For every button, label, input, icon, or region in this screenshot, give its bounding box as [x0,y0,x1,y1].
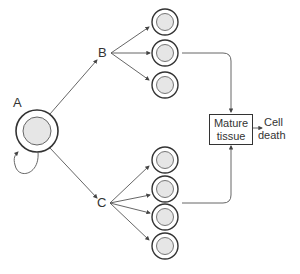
arrow-a-to-c [50,148,97,198]
mature-tissue-line1: Mature [214,117,248,130]
label-a: A [13,96,22,109]
stem-cell-a [16,110,58,152]
arrow-b-to-tissue [182,53,231,112]
lineage-diagram [0,0,300,274]
label-b: B [98,46,107,59]
arrow-c-to-tissue [182,146,231,203]
mature-tissue-line2: tissue [217,130,246,143]
c-progeny-cells [152,147,178,259]
self-renewal-arrow [14,152,38,174]
mature-tissue-box: Mature tissue [209,114,253,145]
label-c: C [97,196,106,209]
b-progeny-cells [152,9,178,98]
cell-death-label: Cell death [258,116,286,142]
arrow-a-to-b [50,60,97,114]
